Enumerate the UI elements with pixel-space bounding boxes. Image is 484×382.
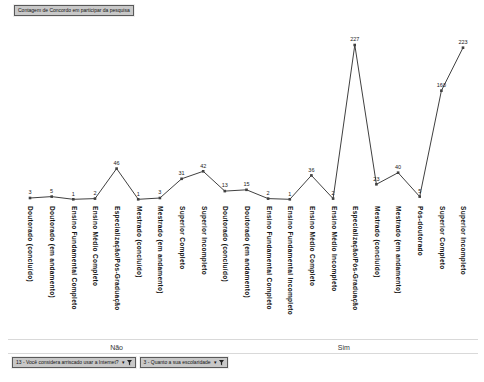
data-point-marker xyxy=(332,197,335,200)
data-point-marker xyxy=(94,197,97,200)
category-label: Especialização/Pós-Graduação xyxy=(351,206,359,311)
pivot-chart-area: 35124613314213152136222723405160223Douto… xyxy=(0,0,484,382)
data-point-label: 3 xyxy=(28,189,31,195)
axis-field-buttons: 13 - Você considera arriscado usar a Int… xyxy=(12,357,228,368)
filter-button-label: 3 - Quanto a sua escolaridade xyxy=(144,360,211,366)
category-label: Ensino Médio Incompleto xyxy=(330,206,338,292)
data-point-marker xyxy=(224,190,227,193)
data-point-marker xyxy=(245,189,248,192)
data-point-label: 42 xyxy=(200,163,206,169)
filter-funnel-icon xyxy=(219,360,224,366)
category-label: Superior Incompleto xyxy=(459,206,467,275)
group-label: Sim xyxy=(338,344,350,351)
data-point-marker xyxy=(50,195,53,198)
data-point-marker xyxy=(115,167,118,170)
data-point-label: 31 xyxy=(179,170,185,176)
data-point-marker xyxy=(267,197,270,200)
data-point-marker xyxy=(29,197,32,200)
data-point-marker xyxy=(202,170,205,173)
category-label: Doutorado (concluído) xyxy=(221,206,229,282)
data-point-marker xyxy=(418,195,421,198)
data-point-label: 46 xyxy=(114,160,120,166)
data-point-marker xyxy=(310,174,313,177)
data-point-label: 13 xyxy=(222,182,228,188)
line-chart: 35124613314213152136222723405160223Douto… xyxy=(0,0,484,382)
data-point-label: 1 xyxy=(72,191,75,197)
data-point-label: 2 xyxy=(332,190,335,196)
data-point-label: 227 xyxy=(350,36,359,42)
data-point-marker xyxy=(180,178,183,181)
category-label: Ensino Fundamental Incompleto xyxy=(286,206,294,315)
data-point-marker xyxy=(397,171,400,174)
category-label: Mestrado (em andamento) xyxy=(394,206,402,294)
category-label: Doutorado (concluído) xyxy=(26,206,34,282)
dropdown-arrow-icon: ▾ xyxy=(122,360,125,366)
data-point-label: 40 xyxy=(395,164,401,170)
data-point-label: 160 xyxy=(437,82,446,88)
data-point-marker xyxy=(462,46,465,49)
data-point-label: 1 xyxy=(137,191,140,197)
data-point-label: 23 xyxy=(373,176,379,182)
data-point-marker xyxy=(137,198,140,201)
filter-button-escolaridade[interactable]: 3 - Quanto a sua escolaridade ▾ xyxy=(140,357,228,368)
category-label: Ensino Fundamental Completo xyxy=(265,206,273,310)
chart-line xyxy=(30,45,463,199)
data-point-label: 3 xyxy=(158,189,161,195)
category-label: Doutorado (em andamento) xyxy=(48,206,56,298)
value-field-button[interactable]: Contagem de Concordo em participar da pe… xyxy=(14,5,134,16)
data-point-label: 2 xyxy=(267,190,270,196)
data-point-label: 5 xyxy=(418,188,421,194)
data-point-marker xyxy=(353,44,356,47)
category-label: Especialização/Pós-Graduação xyxy=(113,206,121,311)
filter-button-internet-risk[interactable]: 13 - Você considera arriscado usar a Int… xyxy=(12,357,136,368)
dropdown-arrow-icon: ▾ xyxy=(214,360,217,366)
category-label: Ensino Médio Completo xyxy=(91,206,99,286)
data-point-label: 223 xyxy=(458,39,467,45)
category-label: Superior Incompleto xyxy=(200,206,208,275)
category-label: Ensino Médio Completo xyxy=(308,206,316,286)
data-point-marker xyxy=(375,183,378,186)
data-point-label: 36 xyxy=(308,167,314,173)
category-label: Pós-doutorado xyxy=(417,206,424,256)
category-label: Ensino Fundamental Completo xyxy=(70,206,78,310)
filter-button-label: 13 - Você considera arriscado usar a Int… xyxy=(16,360,119,366)
data-point-marker xyxy=(440,89,443,92)
category-label: Mestrado (concluído) xyxy=(373,206,381,278)
data-point-marker xyxy=(72,198,75,201)
data-point-label: 2 xyxy=(93,190,96,196)
data-point-marker xyxy=(159,197,162,200)
group-label: Não xyxy=(110,344,123,351)
data-point-label: 1 xyxy=(288,191,291,197)
category-label: Mestrado (concluído) xyxy=(135,206,143,278)
category-label: Doutorado (em andamento) xyxy=(243,206,251,298)
category-label: Superior Completo xyxy=(178,206,186,270)
category-label: Mestrado (em andamento) xyxy=(156,206,164,294)
category-label: Superior Completo xyxy=(438,206,446,270)
data-point-marker xyxy=(289,198,292,201)
data-point-label: 15 xyxy=(243,181,249,187)
filter-funnel-icon xyxy=(127,360,132,366)
data-point-label: 5 xyxy=(50,188,53,194)
